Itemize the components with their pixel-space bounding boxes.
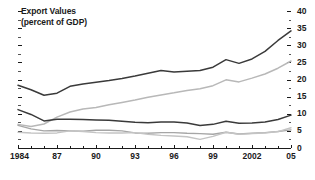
x-axis-tick-label: 2002 xyxy=(243,151,262,161)
x-axis-tick-label: 93 xyxy=(130,151,139,161)
y-axis-tick-label: 15 xyxy=(297,91,306,101)
y-axis-tick-label: 0 xyxy=(297,143,302,153)
y-axis-tick-label: 35 xyxy=(297,23,306,33)
y-axis-tick-label: 20 xyxy=(297,74,306,84)
y-axis-tick-label: 10 xyxy=(297,108,306,118)
x-axis-tick-label: 05 xyxy=(286,151,295,161)
x-axis-tick-label: 96 xyxy=(169,151,178,161)
chart-title-block: Export Values (percent of GDP) xyxy=(21,6,87,28)
series-line-2 xyxy=(18,61,291,126)
x-axis-tick-label: 99 xyxy=(208,151,217,161)
series-line-3 xyxy=(18,110,291,126)
series-line-1 xyxy=(18,31,291,95)
y-axis-tick-label: 25 xyxy=(297,57,306,67)
chart-subtitle: (percent of GDP) xyxy=(21,17,87,28)
x-axis-tick-label: 1984 xyxy=(10,151,29,161)
y-axis-tick-label: 5 xyxy=(297,125,302,135)
x-axis-tick-label: 87 xyxy=(52,151,61,161)
y-axis-tick-label: 40 xyxy=(297,6,306,16)
x-axis-tick-label: 90 xyxy=(91,151,100,161)
y-axis-tick-label: 30 xyxy=(297,40,306,50)
chart-title: Export Values xyxy=(21,6,87,17)
chart-container: Export Values (percent of GDP) 051015202… xyxy=(0,0,315,180)
